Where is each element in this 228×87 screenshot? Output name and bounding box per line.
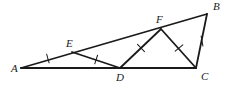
vertex-label-C: C — [201, 70, 209, 82]
vertex-label-D: D — [115, 71, 124, 83]
vertex-label-F: F — [155, 13, 163, 25]
geometry-figure-svg: A B C D E F — [0, 0, 228, 87]
vertex-label-E: E — [65, 37, 73, 49]
geometry-figure-container: A B C D E F — [0, 0, 228, 87]
vertex-label-A: A — [10, 62, 18, 74]
segment-AB — [21, 14, 207, 68]
segment-DF — [120, 29, 161, 68]
tick-mark-AE — [47, 54, 49, 63]
vertex-label-B: B — [213, 0, 220, 12]
